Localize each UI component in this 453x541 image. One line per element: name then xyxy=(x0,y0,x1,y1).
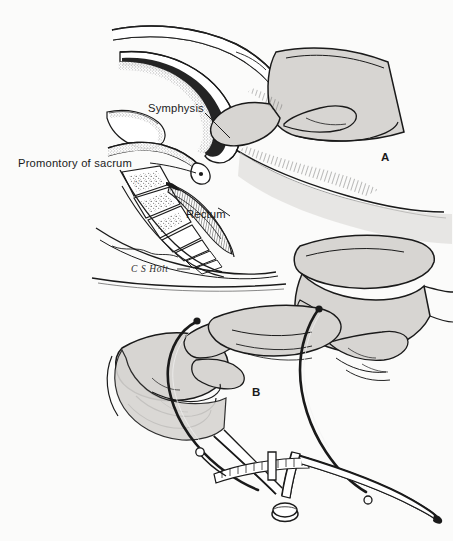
pelvimeter-tip-right xyxy=(315,305,322,312)
pelvimeter-pivot-left xyxy=(196,448,204,456)
label-promontory-of-sacrum: Promontory of sacrum xyxy=(18,157,132,169)
figure-caption xyxy=(0,529,453,541)
svg-text:C S Holt: C S Holt xyxy=(131,264,169,274)
label-rectum: Rectum xyxy=(186,208,226,220)
pelvimeter-tip-left xyxy=(193,317,200,324)
figure-illustration: ·.· xyxy=(0,0,453,541)
pelvimeter-hinge xyxy=(272,503,298,522)
panel-label-a: A xyxy=(381,151,390,163)
illustration-canvas: ·.· xyxy=(0,0,453,541)
pelvimeter-scale-pointer xyxy=(268,452,276,480)
panel-label-b: B xyxy=(252,386,261,398)
label-symphysis: Symphysis xyxy=(148,102,204,114)
